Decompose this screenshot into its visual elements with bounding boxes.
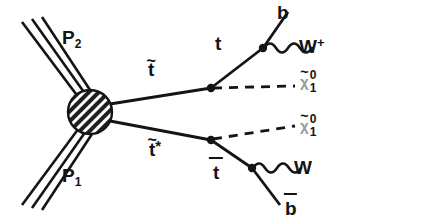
feynman-diagram-canvas: P2 P1 ~t ~t* t t b b W+ W ~χ01 ~χ01 xyxy=(0,0,424,224)
w-plus-charge: + xyxy=(317,35,325,50)
antib-letter: b xyxy=(285,198,297,219)
stop-lower-label: ~t* xyxy=(149,138,161,159)
neutralino-upper-sup: 0 xyxy=(310,69,317,82)
b-quark-label: b xyxy=(277,3,289,22)
stop-upper-label: ~t xyxy=(148,60,154,79)
top-quark-line xyxy=(211,48,263,88)
proton-1-label: P1 xyxy=(62,166,81,188)
w-minus-label: W xyxy=(294,158,312,177)
proton-2-label: P2 xyxy=(62,28,81,50)
antitop-quark-label: t xyxy=(213,163,219,182)
antitop-letter: t xyxy=(213,162,219,183)
top-quark-label: t xyxy=(215,34,221,53)
stop-upper-tilde-accent: ~ xyxy=(146,52,155,68)
proton-2-beam-lines xyxy=(22,17,92,98)
proton-1-beam-lines xyxy=(22,128,92,210)
antitop-bar-accent xyxy=(209,157,223,159)
neutralino-lower-tilde: ~ xyxy=(300,109,308,123)
stop-lower-tilde-accent: ~ xyxy=(147,131,156,147)
proton-2-index: 2 xyxy=(75,37,82,51)
hard-scatter-blob xyxy=(68,90,112,134)
neutralino-upper-label: ~χ01 xyxy=(300,69,316,94)
neutralino-upper-dashed-line xyxy=(213,86,295,88)
antib-bar-accent xyxy=(284,193,298,195)
proton-1-index: 1 xyxy=(75,175,82,189)
w-plus-label: W+ xyxy=(299,36,325,56)
neutralino-upper-sub: 1 xyxy=(310,82,317,95)
neutralino-lower-dashed-line xyxy=(213,126,295,139)
antib-quark-label: b xyxy=(285,199,297,218)
antib-quark-line xyxy=(252,168,280,205)
neutralino-lower-sup: 0 xyxy=(310,113,317,126)
stop-upper-line xyxy=(110,88,211,104)
neutralino-lower-label: ~χ01 xyxy=(300,113,316,138)
neutralino-lower-sub: 1 xyxy=(310,126,317,139)
neutralino-upper-tilde: ~ xyxy=(300,65,308,79)
